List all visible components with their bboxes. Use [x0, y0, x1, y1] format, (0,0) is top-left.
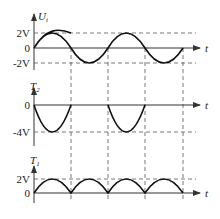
sine-wave: [34, 30, 183, 63]
tick-0: 0: [25, 42, 31, 54]
panel-input: Ui 2V 0 -2V t: [13, 10, 209, 70]
tick-neg4v: -4V: [13, 126, 30, 138]
tick-0: 0: [25, 187, 31, 199]
xlabel-t: t: [205, 187, 209, 199]
tick-neg2v: -2V: [13, 57, 30, 69]
vertical-guides: [71, 48, 183, 200]
negative-half-wave: [34, 105, 145, 132]
waveform-diagram: Ui 2V 0 -2V t T2 0 -4V t T1 2V 0 t: [0, 0, 220, 219]
ylabel-ui: Ui: [38, 10, 48, 24]
xlabel-t: t: [205, 42, 209, 54]
panel-t1: T1 2V 0 t: [17, 154, 209, 203]
tick-2v: 2V: [17, 27, 31, 39]
panel-t2: T2 0 -4V t: [13, 80, 209, 146]
xlabel-t: t: [205, 99, 209, 111]
full-wave-rectified: [34, 179, 183, 193]
ylabel-t1: T1: [30, 154, 40, 168]
tick-0: 0: [25, 99, 31, 111]
ylabel-t2: T2: [30, 80, 40, 94]
tick-2v: 2V: [17, 173, 31, 185]
